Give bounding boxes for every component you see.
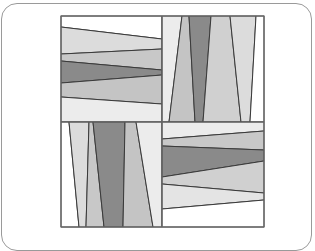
quadrant-bottom-right xyxy=(162,122,264,227)
quadrant-top-left xyxy=(61,16,162,122)
quadrant-bottom-left xyxy=(61,122,162,227)
quadrant-top-right xyxy=(162,16,264,122)
